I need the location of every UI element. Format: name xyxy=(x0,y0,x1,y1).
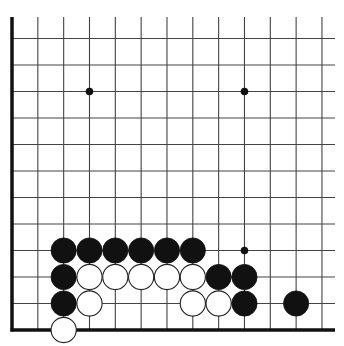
star-point xyxy=(241,247,249,255)
black-stone xyxy=(129,238,154,263)
black-stone xyxy=(284,291,309,316)
white-stone xyxy=(103,264,128,289)
black-stone xyxy=(51,238,76,263)
black-stone xyxy=(180,238,205,263)
black-stone xyxy=(232,291,257,316)
star-point xyxy=(86,88,94,96)
black-stone xyxy=(51,264,76,289)
white-stone xyxy=(77,291,102,316)
black-stone xyxy=(232,264,257,289)
go-board xyxy=(0,0,344,346)
black-stone xyxy=(154,238,179,263)
white-stone xyxy=(77,264,102,289)
black-stone xyxy=(206,264,231,289)
white-stone xyxy=(51,317,76,342)
black-stone xyxy=(103,238,128,263)
white-stone xyxy=(154,264,179,289)
white-stone xyxy=(206,291,231,316)
white-stone xyxy=(129,264,154,289)
white-stone xyxy=(180,264,205,289)
white-stone xyxy=(180,291,205,316)
black-stone xyxy=(51,291,76,316)
black-stone xyxy=(77,238,102,263)
star-point xyxy=(241,88,249,96)
